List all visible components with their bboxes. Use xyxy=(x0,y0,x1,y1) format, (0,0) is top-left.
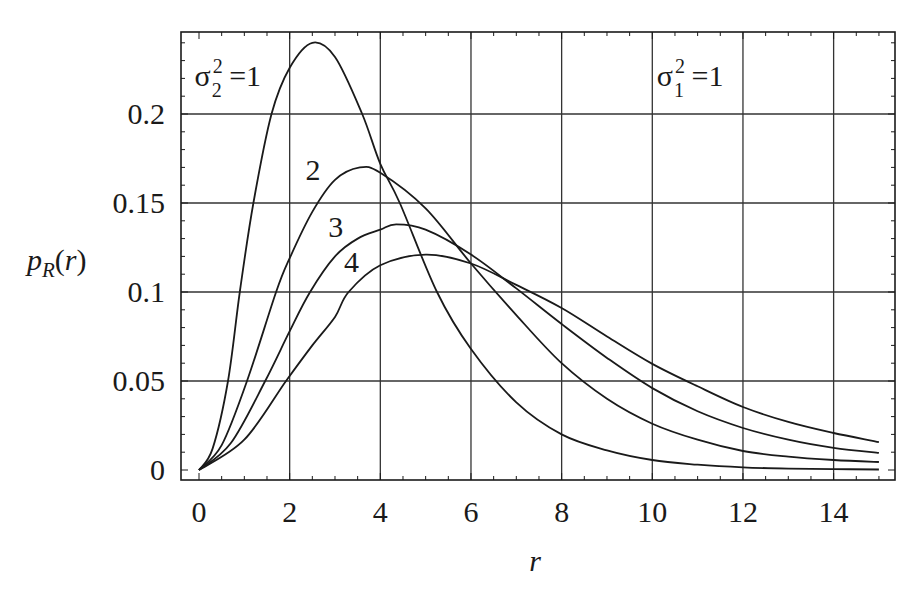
x-tick-label: 6 xyxy=(463,495,478,528)
x-tick-label: 14 xyxy=(819,495,849,528)
plot-frame xyxy=(181,32,895,480)
y-tick-label: 0 xyxy=(150,453,165,486)
x-tick-label: 8 xyxy=(554,495,569,528)
y-tick-label: 0.05 xyxy=(113,364,166,397)
sigma-symbol: σ xyxy=(194,59,210,92)
curve-sigma2-sq-2 xyxy=(199,167,879,470)
grid-lines xyxy=(181,32,895,480)
curve-sigma2-sq-3 xyxy=(199,224,879,470)
plot-border xyxy=(181,32,895,480)
x-tick-label: 4 xyxy=(373,495,388,528)
curve-label: 2 xyxy=(306,153,321,186)
x-tick-label: 0 xyxy=(192,495,207,528)
curve-label: 4 xyxy=(344,245,359,278)
sigma-value: =1 xyxy=(684,59,723,92)
curve-label: 3 xyxy=(328,210,343,243)
x-tick-label: 2 xyxy=(282,495,297,528)
y-axis-title-main: p xyxy=(25,243,42,276)
y-axis-title-close: ) xyxy=(77,243,87,277)
y-axis-title-suffix: ( xyxy=(55,243,65,277)
sigma-symbol: σ xyxy=(657,59,673,92)
sigma-annotation: σ22 =1 xyxy=(194,55,261,101)
line-chart-svg: 02468101214 00.050.10.150.2 σ22 =1σ21 =1… xyxy=(0,0,917,596)
sigma-annotation: σ21 =1 xyxy=(657,55,724,101)
y-tick-label: 0.2 xyxy=(128,97,166,130)
sigma-subscript: 2 xyxy=(212,79,222,101)
data-series xyxy=(199,42,879,470)
chart: 02468101214 00.050.10.150.2 σ22 =1σ21 =1… xyxy=(0,0,917,596)
y-axis-title: pR(r) xyxy=(25,243,87,282)
y-axis-title-sub: R xyxy=(41,258,55,282)
x-tick-label: 12 xyxy=(728,495,758,528)
axis-ticks xyxy=(181,32,895,480)
x-tick-labels: 02468101214 xyxy=(192,495,849,528)
y-tick-label: 0.15 xyxy=(113,186,166,219)
y-tick-label: 0.1 xyxy=(128,275,166,308)
curve-sigma2-sq-1 xyxy=(199,42,879,470)
sigma-subscript: 1 xyxy=(674,79,684,101)
x-axis-title: r xyxy=(529,544,541,577)
curve-annotations: σ22 =1σ21 =1234 xyxy=(194,55,723,279)
y-axis-title-var: r xyxy=(65,243,77,276)
x-tick-label: 10 xyxy=(637,495,667,528)
sigma-value: =1 xyxy=(222,59,261,92)
y-tick-labels: 00.050.10.150.2 xyxy=(113,97,166,486)
